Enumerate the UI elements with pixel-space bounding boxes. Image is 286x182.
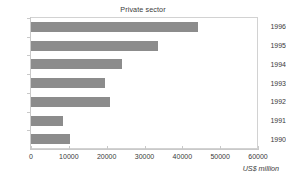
bar-row [31,74,258,93]
y-tick-mark [27,112,30,113]
x-tick-mark [182,146,183,150]
y-tick-label-1995: 1995 [260,42,286,49]
bar-row [31,55,258,74]
x-tick-label-0: 0 [29,153,33,160]
bar-row [31,18,258,37]
x-tick-label-50000: 50000 [210,153,229,160]
x-tick-mark [220,146,221,150]
bar-1995[interactable] [31,41,158,51]
x-tick-label-60000: 60000 [248,153,267,160]
x-axis-title: US$ million [243,164,279,173]
y-tick-label-1990: 1990 [260,136,286,143]
x-tick-label-40000: 40000 [173,153,192,160]
chart-title: Private sector [0,5,286,14]
bar-row [31,112,258,131]
y-tick-label-1996: 1996 [260,23,286,30]
chart-container: Private sector 1996199519941993199219911… [0,0,286,182]
x-tick-mark [107,146,108,150]
bar-1992[interactable] [31,97,110,107]
x-tick-mark [69,146,70,150]
x-tick-label-10000: 10000 [59,153,78,160]
bar-1990[interactable] [31,134,70,144]
y-tick-mark [27,55,30,56]
y-tick-mark [27,74,30,75]
y-tick-mark [27,18,30,19]
x-tick-mark [258,146,259,150]
y-tick-mark [27,93,30,94]
y-tick-mark [27,130,30,131]
y-tick-label-1992: 1992 [260,98,286,105]
x-tick-mark [31,146,32,150]
y-tick-label-1994: 1994 [260,61,286,68]
bar-row [31,37,258,56]
bar-row [31,93,258,112]
x-tick-label-30000: 30000 [135,153,154,160]
bar-1993[interactable] [31,78,105,88]
y-tick-mark [27,37,30,38]
bar-1994[interactable] [31,59,122,69]
bar-1996[interactable] [31,22,198,32]
bar-1991[interactable] [31,116,63,126]
x-tick-mark [145,146,146,150]
y-tick-label-1991: 1991 [260,117,286,124]
y-tick-label-1993: 1993 [260,80,286,87]
plot-area [31,18,258,149]
x-tick-label-20000: 20000 [97,153,116,160]
